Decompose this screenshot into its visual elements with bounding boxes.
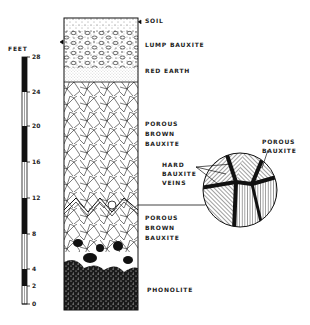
scale-tick-16: 16 (32, 158, 40, 165)
layer-label-porous-brown-bauxite-upper: POROUS BROWN BAUXITE (145, 119, 180, 149)
inset-label-hard-bauxite-veins: HARD BAUXITE VEINS (162, 160, 197, 187)
scale-tick-24: 24 (32, 88, 40, 95)
scale-tick-28: 28 (32, 53, 40, 60)
scale-unit-label: FEET (8, 44, 28, 54)
layer-label-soil: SOIL (145, 16, 164, 26)
inset-magnified-circle (196, 150, 280, 230)
scale-tick-4: 4 (32, 265, 36, 272)
inset-label-porous-bauxite: POROUS BAUXITE (262, 137, 297, 155)
soil-column (60, 18, 141, 310)
scale-tick-2: 2 (32, 282, 36, 289)
scale-bar (22, 57, 30, 304)
layer-label-phonolite: PHONOLITE (147, 285, 193, 295)
scale-tick-12: 12 (32, 194, 40, 201)
layer-label-lump-bauxite: LUMP BAUXITE (145, 40, 205, 50)
layer-label-porous-brown-bauxite-lower: POROUS BROWN BAUXITE (145, 213, 180, 243)
layer-label-red-earth: RED EARTH (145, 66, 190, 76)
scale-tick-20: 20 (32, 122, 40, 129)
scale-tick-8: 8 (32, 230, 36, 237)
scale-tick-0: 0 (32, 300, 36, 307)
